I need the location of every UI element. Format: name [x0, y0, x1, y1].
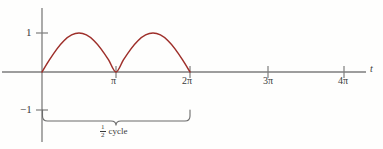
fraction-numerator: 1	[100, 124, 106, 131]
y-axis-label-neg-1: −1	[20, 104, 32, 115]
x-axis-label-4pi: 4π	[338, 76, 348, 86]
x-axis-label-pi: π	[111, 76, 116, 86]
fraction-denominator: 2	[100, 131, 106, 139]
y-axis-label-1: 1	[26, 27, 32, 38]
cycle-word: cycle	[109, 127, 128, 136]
x-axis-label-2pi: 2π	[182, 76, 192, 86]
sine-half-cycle-figure: 1 −1 π 2π 3π 4π t 1 2 cycle	[0, 0, 383, 149]
x-axis-label-3pi: 3π	[263, 76, 273, 86]
one-half-fraction: 1 2	[100, 124, 106, 140]
x-axis-name-t: t	[370, 64, 373, 74]
half-cycle-annotation-label: 1 2 cycle	[100, 124, 127, 140]
